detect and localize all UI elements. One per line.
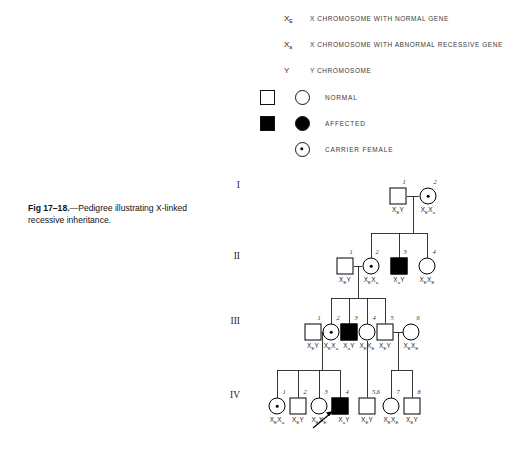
individual-index-II-1: 1 xyxy=(349,248,352,255)
genotype-IV-8: XEY xyxy=(406,416,418,423)
genotype-III-1: XEY xyxy=(307,342,319,349)
male-square-icon xyxy=(337,258,354,275)
individual-III-5[interactable] xyxy=(377,324,394,341)
individual-index-IV-5-6: 5,6 xyxy=(372,388,380,395)
female-circle-icon xyxy=(359,324,376,341)
genotype-II-2: XEXa xyxy=(364,276,379,283)
male-square-icon xyxy=(377,324,394,341)
individual-index-III-3: 3 xyxy=(354,314,357,321)
genotype-II-4: XEXE xyxy=(419,276,434,283)
male-square-icon xyxy=(390,188,407,205)
female-circle-icon xyxy=(403,324,420,341)
individual-index-IV-1: 1 xyxy=(282,388,285,395)
female-circle-icon xyxy=(419,258,436,275)
individual-index-IV-7: 7 xyxy=(396,388,399,395)
individual-index-III-4: 4 xyxy=(372,314,375,321)
individual-III-3[interactable] xyxy=(341,324,358,341)
individual-index-I-2: 2 xyxy=(433,178,436,185)
female-circle-icon xyxy=(383,398,400,415)
genotype-III-4: XEXE xyxy=(359,342,374,349)
individual-index-IV-8: 8 xyxy=(417,388,420,395)
genotype-IV-2: XEY xyxy=(292,416,304,423)
individual-IV-4-proband[interactable] xyxy=(332,398,349,415)
male-square-icon xyxy=(290,398,307,415)
genotype-IV-3: XEXE xyxy=(311,416,326,423)
male-square-icon xyxy=(305,324,322,341)
female-circle-icon xyxy=(311,398,328,415)
individual-index-IV-2: 2 xyxy=(303,388,306,395)
male-square-icon xyxy=(359,398,376,415)
affected-male-square-icon xyxy=(391,258,408,275)
carrier-female-circle-icon xyxy=(363,258,380,275)
individual-I-2[interactable] xyxy=(420,188,437,205)
carrier-female-circle-icon xyxy=(269,398,286,415)
individual-IV-2[interactable] xyxy=(290,398,307,415)
individual-IV-7[interactable] xyxy=(383,398,400,415)
individual-II-1[interactable] xyxy=(337,258,354,275)
genotype-IV-7: XEXE xyxy=(383,416,398,423)
pedigree-nodes: 1 XEY 2 XEXa 1 XEY 2 XEXa 3 XaY 4 XEXE xyxy=(0,0,526,457)
genotype-II-1: XEY xyxy=(339,276,351,283)
genotype-III-5: XEY xyxy=(379,342,391,349)
individual-index-III-2: 2 xyxy=(336,314,339,321)
individual-index-I-1: 1 xyxy=(402,178,405,185)
individual-index-IV-3: 3 xyxy=(324,388,327,395)
affected-male-square-icon xyxy=(332,398,349,415)
individual-III-2[interactable] xyxy=(323,324,340,341)
individual-III-1[interactable] xyxy=(305,324,322,341)
male-square-icon xyxy=(404,398,421,415)
individual-index-III-5: 5 xyxy=(390,314,393,321)
pedigree-figure: XE X CHROMOSOME WITH NORMAL GENE Xa X CH… xyxy=(0,0,526,457)
genotype-IV-5-6: XEY xyxy=(361,416,373,423)
genotype-III-6: XEXE xyxy=(403,342,418,349)
individual-II-3[interactable] xyxy=(391,258,408,275)
individual-IV-1[interactable] xyxy=(269,398,286,415)
individual-index-III-6: 6 xyxy=(416,314,419,321)
carrier-female-circle-icon xyxy=(420,188,437,205)
individual-IV-8[interactable] xyxy=(404,398,421,415)
genotype-II-3: XaY xyxy=(393,276,405,283)
individual-index-II-3: 3 xyxy=(403,248,406,255)
individual-index-II-2: 2 xyxy=(375,248,378,255)
individual-IV-3[interactable] xyxy=(311,398,328,415)
individual-III-4[interactable] xyxy=(359,324,376,341)
individual-II-2[interactable] xyxy=(363,258,380,275)
genotype-III-3: XaY xyxy=(343,342,355,349)
carrier-female-circle-icon xyxy=(323,324,340,341)
affected-male-square-icon xyxy=(341,324,358,341)
individual-index-IV-4: 4 xyxy=(345,388,348,395)
genotype-I-1: XEY xyxy=(392,206,404,213)
individual-index-II-4: 4 xyxy=(432,248,435,255)
genotype-I-2: XEXa xyxy=(421,206,436,213)
genotype-III-2: XEXa xyxy=(324,342,339,349)
individual-IV-5-6[interactable] xyxy=(359,398,376,415)
individual-III-6[interactable] xyxy=(403,324,420,341)
genotype-IV-4: XaY xyxy=(338,416,350,423)
individual-I-1[interactable] xyxy=(390,188,407,205)
individual-index-III-1: 1 xyxy=(317,314,320,321)
individual-II-4[interactable] xyxy=(419,258,436,275)
genotype-IV-1: XEXa xyxy=(270,416,285,423)
